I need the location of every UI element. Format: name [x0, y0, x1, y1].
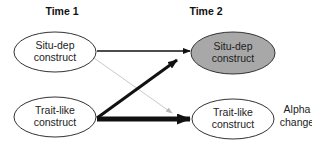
node-time1-trait-like: Trait-like construct	[14, 97, 96, 137]
diagram-canvas: Time 1 Time 2 Situ-dep construct Situ-de…	[0, 0, 312, 141]
node-label-line1: Trait-like	[213, 106, 253, 118]
node-time1-situ-dep: Situ-dep construct	[14, 32, 96, 72]
node-label-line1: Situ-dep	[35, 39, 74, 51]
node-label-line1: Trait-like	[35, 104, 75, 116]
alpha-change-line2: change	[280, 116, 312, 128]
node-time2-trait-like: Trait-like construct	[192, 99, 274, 139]
alpha-change-line1: Alpha	[284, 103, 311, 115]
node-label-line2: construct	[212, 52, 255, 64]
node-time2-situ-dep: Situ-dep construct	[191, 32, 275, 74]
edge-situ-to-trait	[94, 58, 172, 113]
node-label-line2: construct	[212, 118, 255, 130]
node-label-line2: construct	[34, 116, 77, 128]
time2-header: Time 2	[189, 5, 222, 17]
node-label-line2: construct	[34, 51, 77, 63]
node-label-line1: Situ-dep	[213, 40, 252, 52]
time1-header: Time 1	[45, 5, 78, 17]
